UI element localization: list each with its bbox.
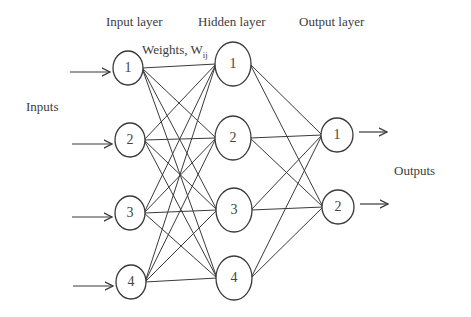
input-node-label: 3 (127, 205, 134, 221)
weight-edge (251, 207, 323, 278)
weight-edge (251, 135, 322, 210)
input-node-label: 2 (127, 132, 134, 148)
hidden-node-label: 1 (230, 56, 237, 72)
weight-connections (142, 64, 323, 282)
hidden-layer-label: Hidden layer (198, 14, 266, 30)
weight-edge (144, 213, 217, 278)
weight-edge (145, 278, 217, 282)
weights-subscript: ij (203, 50, 208, 60)
weights-label: Weights, Wij (142, 42, 208, 60)
weight-edge (144, 64, 216, 140)
weight-edge (251, 207, 323, 210)
weight-edge (145, 64, 216, 282)
weights-text: Weights, W (142, 42, 203, 57)
weight-edge (142, 68, 217, 278)
input-node-label: 4 (128, 274, 135, 290)
weight-edge (142, 64, 216, 68)
weight-edge (145, 210, 217, 282)
output-layer-label: Output layer (299, 14, 364, 30)
output-node-label: 2 (335, 199, 342, 215)
hidden-node-label: 4 (231, 270, 238, 286)
input-node-label: 1 (125, 60, 132, 76)
io-arrows (70, 72, 388, 286)
weight-edge (251, 135, 322, 278)
hidden-node-label: 2 (230, 130, 237, 146)
inputs-label: Inputs (26, 99, 59, 115)
output-node-label: 1 (334, 127, 341, 143)
hidden-node-label: 3 (231, 202, 238, 218)
input-layer-label: Input layer (106, 14, 163, 30)
outputs-label: Outputs (394, 163, 435, 179)
weight-edge (250, 64, 322, 135)
